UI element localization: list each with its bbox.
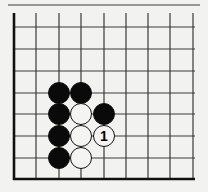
black-stone	[49, 126, 70, 147]
white-stone	[71, 148, 92, 169]
move-number-label: 1	[100, 128, 108, 144]
black-stone	[49, 148, 70, 169]
white-stone: 1	[94, 126, 115, 147]
white-stone	[71, 104, 92, 125]
black-stone	[49, 83, 70, 104]
white-stone	[71, 126, 92, 147]
black-stone	[94, 104, 115, 125]
black-stone	[49, 104, 70, 125]
board-grid	[8, 5, 200, 180]
go-board: 1	[0, 0, 208, 192]
black-stone	[71, 83, 92, 104]
